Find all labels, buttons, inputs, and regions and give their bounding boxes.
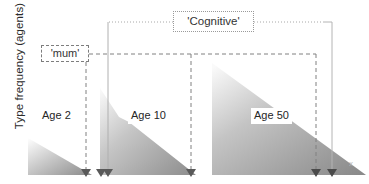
label-age2: Age 2 [39, 108, 74, 124]
callout-cognitive[interactable]: 'Cognitive' [173, 11, 254, 32]
x-axis-tick-label: x [349, 160, 353, 168]
figure-canvas: Type frequency (agents) [0, 0, 369, 184]
distribution-age10 [100, 88, 196, 175]
label-age10: Age 10 [128, 108, 169, 124]
label-age50: Age 50 [251, 108, 292, 124]
callout-mum[interactable]: 'mum' [41, 45, 89, 62]
